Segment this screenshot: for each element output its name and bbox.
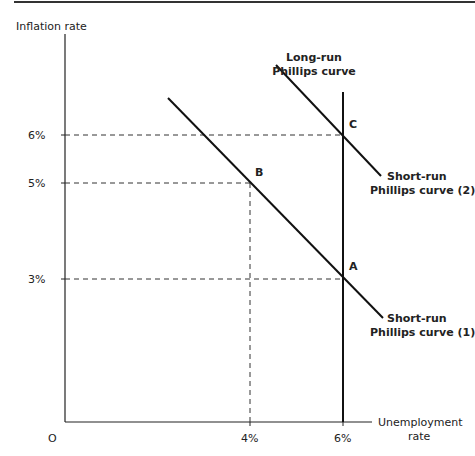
x-tick-label-6: 6% — [334, 432, 351, 445]
sr2-label-line1: Short-run — [387, 170, 447, 183]
sr1-label-line2: Phillips curve (1) — [370, 326, 475, 339]
y-tick-label-3: 3% — [28, 273, 45, 286]
point-a-label: A — [349, 260, 358, 273]
short-run-phillips-curve-1 — [168, 98, 383, 318]
origin-label: O — [48, 432, 57, 445]
point-b-label: B — [255, 166, 263, 179]
sr1-label-line1: Short-run — [387, 312, 447, 325]
phillips-curve-diagram: Inflation rate 6% 5% 3% O 4% 6% Unemploy… — [0, 0, 475, 456]
x-tick-label-4: 4% — [241, 432, 258, 445]
x-axis-label-line1: Unemployment — [378, 416, 463, 429]
short-run-phillips-curve-2 — [276, 65, 381, 176]
lr-label-line1: Long-run — [286, 51, 342, 64]
y-axis-label: Inflation rate — [16, 20, 87, 33]
point-c-label: C — [349, 118, 357, 131]
y-tick-label-6: 6% — [28, 129, 45, 142]
y-tick-label-5: 5% — [28, 177, 45, 190]
lr-label-line2: Phillips curve — [272, 65, 356, 78]
sr2-label-line2: Phillips curve (2) — [370, 184, 475, 197]
x-axis-label-line2: rate — [408, 430, 431, 443]
